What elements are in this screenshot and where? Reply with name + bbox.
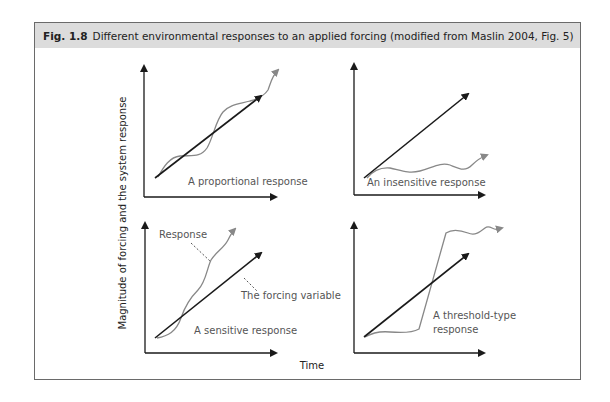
response-leader-line — [191, 243, 211, 262]
x-axis-label: Time — [299, 360, 324, 371]
diagram-canvas: Magnitude of forcing and the system resp… — [0, 0, 610, 402]
panel-threshold: A threshold-type response — [354, 223, 516, 353]
panel-insensitive: An insensitive response — [354, 64, 487, 195]
y-axis-label: Magnitude of forcing and the system resp… — [117, 97, 128, 330]
panel-label: An insensitive response — [367, 177, 486, 188]
panel-label: A sensitive response — [194, 325, 297, 336]
panel-proportional: A proportional response — [144, 66, 308, 197]
forcing-annotation: The forcing variable — [240, 290, 341, 301]
panel-label-line2: response — [433, 324, 478, 335]
panel-sensitive: Response The forcing variable A sensitiv… — [145, 223, 341, 353]
panel-label-line1: A threshold-type — [433, 310, 516, 321]
forcing-arrow — [155, 96, 261, 178]
response-annotation: Response — [159, 229, 207, 240]
panel-label: A proportional response — [188, 176, 308, 187]
response-curve — [367, 155, 487, 178]
